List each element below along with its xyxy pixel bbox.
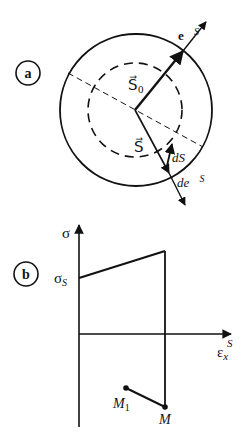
label-S: S⃗	[134, 137, 144, 155]
point-M1-label: M1	[112, 396, 130, 413]
panel-a-label: a	[25, 66, 32, 81]
point-M1-dot	[123, 385, 129, 391]
diagram-canvas: a S⃗0 e⃗S S⃗ dS⃗ de⃗S b σ σS εx S M1 M	[0, 0, 246, 446]
panel-a: a S⃗0 e⃗S S⃗ dS⃗ de⃗S	[16, 22, 212, 205]
vector-S0-arrow	[135, 51, 183, 110]
panel-b-label: b	[22, 267, 30, 282]
label-S0: S⃗0	[128, 75, 144, 95]
sigma-axis-label: σ	[62, 225, 70, 241]
point-M-dot	[162, 404, 168, 410]
label-eS: e⃗S	[178, 26, 199, 43]
point-M-label: M	[158, 412, 172, 427]
label-deS: de⃗S	[177, 173, 204, 190]
M1-M-segment	[126, 388, 165, 407]
panel-b: b σ σS εx S M1 M	[14, 225, 233, 427]
yield-line	[79, 251, 165, 278]
strain-axis-sup: S	[227, 337, 233, 349]
sigma-s-label: σS	[54, 270, 67, 288]
label-dS: dS⃗	[172, 150, 195, 165]
